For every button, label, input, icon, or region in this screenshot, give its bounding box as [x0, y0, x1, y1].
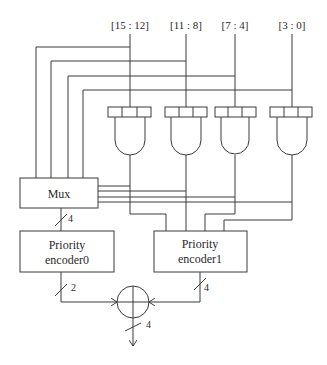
- encoder1-bus-width: 4: [204, 282, 209, 293]
- gate-to-mux-wires: [98, 155, 292, 202]
- priority-encoder-diagram: [15 : 12] [11 : 8] [7 : 4] [3 : 0]: [0, 0, 327, 365]
- adder-output-width: 4: [146, 319, 151, 330]
- gate-to-encoder1-wires: [130, 186, 292, 231]
- input-label-11-8: [11 : 8]: [170, 19, 202, 31]
- priority-encoder1-block: Priority encoder1: [154, 231, 247, 272]
- mux-label: Mux: [48, 187, 71, 201]
- input-wires: [130, 34, 292, 107]
- adder-output-bus: 4: [125, 318, 151, 346]
- priority-encoder0-block: Priority encoder0: [20, 231, 114, 272]
- encoder0-label-line1: Priority: [49, 238, 86, 252]
- mux-to-encoder0-bus: 4: [55, 208, 73, 231]
- or-gate-1: [165, 107, 207, 155]
- mux-block: Mux: [20, 178, 98, 208]
- encoder1-label-line1: Priority: [182, 237, 219, 251]
- encoder0-label-line2: encoder0: [45, 253, 89, 267]
- or-gate-0: [108, 107, 151, 155]
- mux-bus-width: 4: [68, 213, 73, 224]
- encoder1-label-line2: encoder1: [178, 252, 222, 266]
- input-label-7-4: [7 : 4]: [222, 19, 249, 31]
- encoder0-bus-width: 2: [71, 282, 76, 293]
- encoder1-to-adder-bus: 4: [149, 272, 209, 302]
- input-label-15-12: [15 : 12]: [111, 19, 149, 31]
- adder-icon: [117, 286, 149, 318]
- or-gate-3: [270, 107, 312, 155]
- or-gate-2: [215, 107, 256, 154]
- encoder0-to-adder-bus: 2: [55, 272, 117, 302]
- input-label-3-0: [3 : 0]: [279, 19, 306, 31]
